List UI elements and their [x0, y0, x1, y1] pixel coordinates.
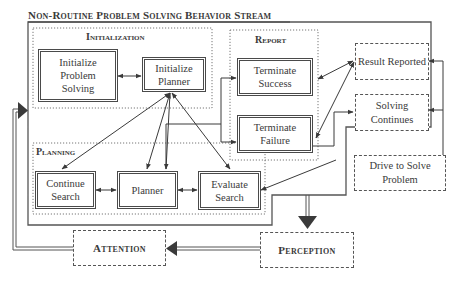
planner-node: Planner — [117, 171, 178, 209]
behavior-stream-diagram: Non-Routine Problem Solving Behavior Str… — [0, 0, 458, 281]
result-reported-state: Result Reported — [355, 43, 429, 80]
continue-search-node: Continue Search — [35, 171, 96, 209]
initialization-label: Initialization — [86, 31, 145, 42]
evaluate-search-node: Evaluate Search — [198, 171, 261, 210]
drive-to-solve-problem-state: Drive to Solve Problem — [354, 155, 446, 191]
terminate-success-node: Terminate Success — [237, 58, 313, 96]
initialize-planner-node: Initialize Planner — [142, 57, 206, 92]
terminate-failure-node: Terminate Failure — [237, 115, 313, 153]
planning-label: Planning — [36, 146, 75, 157]
report-label: Report — [255, 34, 286, 45]
solving-continues-state: Solving Continues — [355, 94, 429, 131]
diagram-title: Non-Routine Problem Solving Behavior Str… — [28, 9, 271, 21]
perception-state: Perception — [260, 232, 354, 268]
attention-state: Attention — [73, 230, 166, 266]
initialize-problem-solving-node: Initialize Problem Solving — [38, 49, 118, 102]
